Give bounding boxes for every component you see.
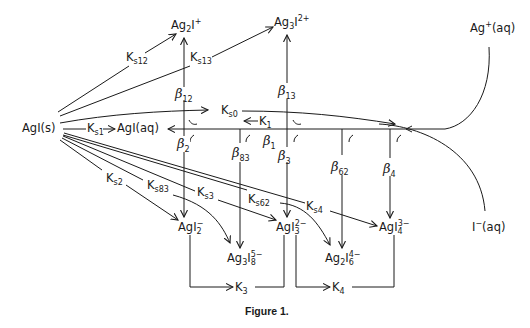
species-agi3-anion: AgI32− xyxy=(276,222,306,234)
constant-beta1: β1 xyxy=(263,134,276,147)
constant-beta13: β13 xyxy=(278,84,296,97)
constant-ks13: Ks13 xyxy=(190,52,212,64)
constant-beta4: β4 xyxy=(383,162,396,175)
constant-beta12: β12 xyxy=(175,87,193,100)
constant-ks12: Ks12 xyxy=(126,52,148,64)
species-ag2i6-anion: Ag2I64− xyxy=(325,253,361,265)
species-ag-ion-aqueous: Ag+(aq) xyxy=(470,23,515,35)
constant-beta62: β62 xyxy=(331,160,349,173)
species-ag2i-cation: Ag2I+ xyxy=(171,20,201,32)
constant-k4: K4 xyxy=(332,282,345,294)
constant-beta2: β2 xyxy=(177,137,190,150)
reaction-scheme-lines xyxy=(0,0,530,328)
constant-beta3: β3 xyxy=(278,149,291,162)
figure-caption: Figure 1. xyxy=(245,305,289,317)
constant-ks3: Ks3 xyxy=(197,187,214,199)
species-agi-aqueous: AgI(aq) xyxy=(117,123,159,135)
species-ag3i8-anion: Ag3I85− xyxy=(227,253,263,265)
constant-ks2: Ks2 xyxy=(106,173,123,185)
constant-beta83: β83 xyxy=(232,146,250,159)
species-iodide-aqueous: I−(aq) xyxy=(472,222,505,234)
constant-ks1: Ks1 xyxy=(87,123,104,135)
constant-ks83: Ks83 xyxy=(147,180,169,192)
species-agi-solid: AgI(s) xyxy=(22,123,56,135)
constant-ks4: Ks4 xyxy=(306,201,323,213)
constant-ks62: Ks62 xyxy=(248,194,270,206)
constant-k1: K1 xyxy=(259,116,272,128)
species-ag3i-dication: Ag3I2+ xyxy=(274,17,309,29)
constant-ks0: Ks0 xyxy=(221,105,238,117)
species-agi2-anion: AgI2− xyxy=(178,222,203,234)
species-agi4-anion: AgI43− xyxy=(379,222,409,234)
constant-k3: K3 xyxy=(235,282,248,294)
